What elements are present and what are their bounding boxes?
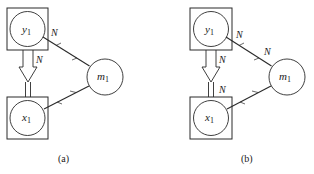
edge-label-n-end-b: N	[263, 46, 272, 57]
half-arrow-icon-to-x1-b	[240, 102, 245, 104]
arrow-label-n-bottom-b: N	[218, 84, 227, 95]
graphical-model-diagram: y1 x1 m1 N N (a) y1 x1 m1	[0, 0, 314, 174]
edge-y1-m1-a	[43, 37, 90, 66]
arrow-label-n-top-b: N	[218, 54, 227, 65]
half-arrow-icon-to-y1-a	[56, 43, 61, 46]
panel-a: y1 x1 m1 N N (a)	[7, 8, 123, 165]
arrow-label-n-a: N	[35, 54, 44, 65]
block-arrow-icon-a	[19, 50, 37, 82]
edge-label-n-start-b: N	[235, 29, 244, 40]
node-x1-label-b: x1	[204, 111, 214, 125]
node-y1-label-a: y1	[21, 23, 31, 37]
caption-b: (b)	[241, 153, 253, 165]
block-arrow-icon-b	[202, 50, 220, 82]
edge-label-n-a: N	[50, 27, 59, 38]
panel-b: y1 x1 m1 N N N N (b)	[190, 8, 305, 165]
caption-a: (a)	[58, 153, 69, 165]
half-arrow-icon-to-x1-a	[57, 102, 62, 104]
edge-x1-m1-a	[44, 86, 89, 109]
half-arrow-icon-to-y1-b	[239, 43, 244, 46]
half-arrow-icon-to-m1-b	[254, 58, 259, 60]
node-x1-label-a: x1	[21, 111, 31, 125]
edge-x1-m1-b	[227, 86, 271, 109]
node-m1-label-b: m1	[279, 70, 291, 84]
node-y1-label-b: y1	[204, 23, 214, 37]
half-arrow-icon-to-m1-a	[72, 58, 77, 60]
half-arrow-icon-to-m1-bottom-a	[70, 91, 76, 93]
node-m1-label-a: m1	[97, 70, 109, 84]
half-arrow-icon-to-m1-bottom-b	[252, 91, 258, 93]
